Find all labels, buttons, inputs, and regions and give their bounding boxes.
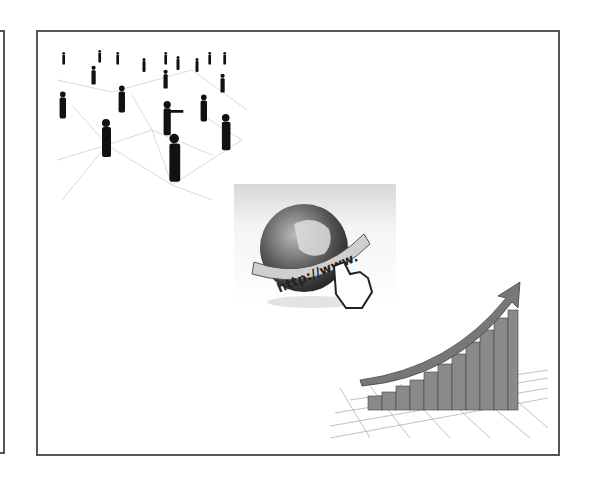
network-lines-icon (57, 70, 247, 200)
adjacent-slide-frame (0, 30, 5, 454)
people-network-illustration (52, 40, 252, 205)
growth-chart-illustration (330, 278, 548, 440)
people-silhouettes-icon (60, 50, 231, 182)
